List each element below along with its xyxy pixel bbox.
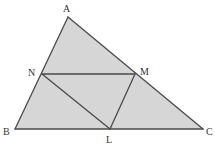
vertex-label-m: M (140, 66, 149, 77)
triangle-diagram: ABCNML (0, 0, 215, 149)
vertex-label-c: C (206, 126, 213, 137)
triangle-abc-fill (15, 17, 203, 129)
vertex-label-a: A (63, 3, 71, 14)
vertex-label-l: L (106, 134, 112, 145)
vertex-label-b: B (3, 126, 10, 137)
vertex-label-n: N (28, 67, 35, 78)
